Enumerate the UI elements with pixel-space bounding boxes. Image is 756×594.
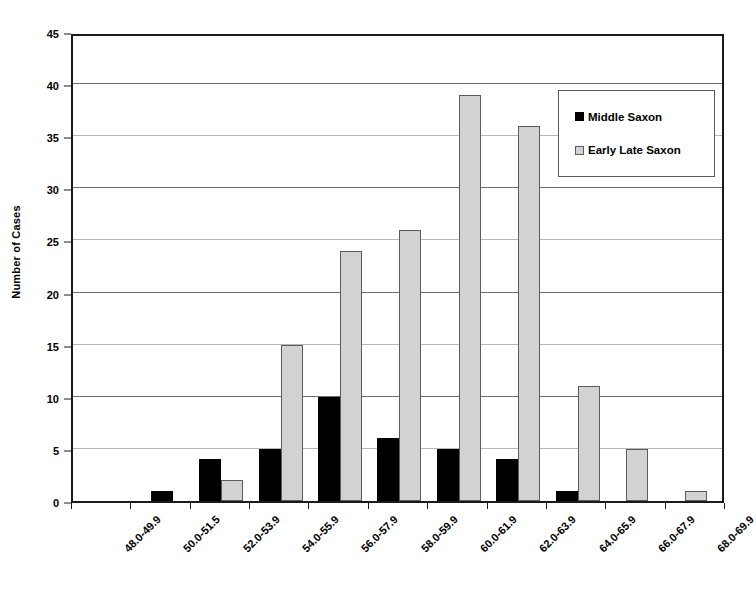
x-tick-mark (71, 503, 72, 509)
bar (281, 345, 303, 501)
bar-group (310, 36, 369, 501)
bar (199, 459, 221, 501)
y-tick-mark-10 (64, 398, 71, 399)
bar-group (73, 36, 132, 501)
y-tick-mark-45 (64, 34, 71, 35)
y-tick-mark-20 (64, 294, 71, 295)
bar-group (251, 36, 310, 501)
y-tick-mark-25 (64, 242, 71, 243)
bar (399, 230, 421, 501)
y-tick-label-30: 30 (47, 185, 59, 196)
y-tick-label-10: 10 (47, 393, 59, 404)
bar-group (429, 36, 488, 501)
bar (685, 491, 707, 501)
bar (151, 491, 173, 501)
bar (340, 251, 362, 501)
bar (518, 126, 540, 501)
y-tick-label-45: 45 (47, 29, 59, 40)
x-tick-label: 50.0-51.5 (181, 513, 222, 554)
x-tick-label: 58.0-59.9 (418, 513, 459, 554)
bar (259, 449, 281, 501)
legend-entry-early-late-saxon: Early Late Saxon (575, 144, 714, 156)
y-tick-label-35: 35 (47, 133, 59, 144)
legend-label-early-late-saxon: Early Late Saxon (588, 144, 681, 156)
x-tick-label: 68.0-69.9 (715, 513, 756, 554)
x-tick-mark (308, 503, 309, 509)
bar (221, 480, 243, 501)
y-tick-label-40: 40 (47, 81, 59, 92)
y-tick-label-20: 20 (47, 289, 59, 300)
bar (377, 438, 399, 501)
x-tick-label: 64.0-65.9 (596, 513, 637, 554)
x-tick-mark (546, 503, 547, 509)
bar-group (370, 36, 429, 501)
x-tick-label: 62.0-63.9 (537, 513, 578, 554)
legend-entry-middle-saxon: Middle Saxon (575, 111, 714, 123)
legend-swatch-icon-early-late-saxon (575, 146, 584, 155)
y-tick-label-5: 5 (53, 445, 59, 456)
y-axis-ticks: 051015202530354045 (0, 0, 71, 503)
x-tick-mark (605, 503, 606, 509)
x-tick-label: 66.0-67.9 (656, 513, 697, 554)
legend-label-middle-saxon: Middle Saxon (588, 111, 662, 123)
y-tick-mark-35 (64, 138, 71, 139)
x-tick-mark (427, 503, 428, 509)
x-tick-label: 54.0-55.9 (300, 513, 341, 554)
bar (496, 459, 518, 501)
bar-group (132, 36, 191, 501)
x-tick-label: 48.0-49.9 (121, 513, 162, 554)
x-tick-mark (724, 503, 725, 509)
x-tick-mark (368, 503, 369, 509)
bar-group (489, 36, 548, 501)
bar (556, 491, 578, 501)
bar (318, 397, 340, 501)
chart-legend: Middle Saxon Early Late Saxon (558, 90, 715, 177)
bar (437, 449, 459, 501)
x-tick-mark (249, 503, 250, 509)
y-tick-mark-5 (64, 450, 71, 451)
bar (459, 95, 481, 501)
y-tick-mark-0 (64, 503, 71, 504)
x-tick-mark (487, 503, 488, 509)
y-tick-label-0: 0 (53, 498, 59, 509)
bar (578, 386, 600, 501)
x-tick-mark (130, 503, 131, 509)
x-tick-label: 52.0-53.9 (240, 513, 281, 554)
x-tick-label: 60.0-61.9 (478, 513, 519, 554)
y-tick-label-15: 15 (47, 341, 59, 352)
y-tick-mark-40 (64, 86, 71, 87)
x-tick-label: 56.0-57.9 (359, 513, 400, 554)
bar (626, 449, 648, 501)
bar-group (192, 36, 251, 501)
y-tick-mark-15 (64, 346, 71, 347)
x-axis-ticks: 48.0-49.950.0-51.552.0-53.954.0-55.956.0… (71, 503, 724, 593)
y-tick-mark-30 (64, 190, 71, 191)
x-tick-mark (665, 503, 666, 509)
legend-swatch-icon-middle-saxon (575, 112, 584, 121)
y-tick-label-25: 25 (47, 237, 59, 248)
x-tick-mark (190, 503, 191, 509)
